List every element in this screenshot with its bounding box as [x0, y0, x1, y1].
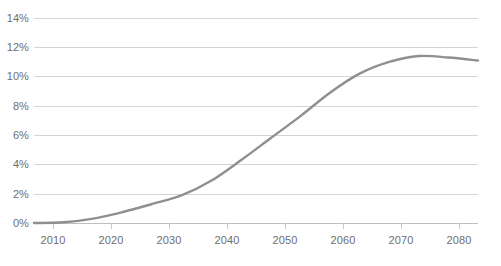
y-tick-label: 12%	[7, 41, 29, 53]
y-tick-label: 4%	[13, 158, 29, 170]
x-tick-label: 2010	[41, 234, 66, 246]
x-tick-mark	[227, 223, 228, 229]
y-tick-label: 14%	[7, 12, 29, 24]
gridline	[34, 47, 478, 48]
x-axis-line	[34, 223, 478, 224]
x-tick-mark	[343, 223, 344, 229]
x-tick-mark	[53, 223, 54, 229]
x-tick-mark	[285, 223, 286, 229]
y-tick-label: 8%	[13, 100, 29, 112]
gridline	[34, 76, 478, 77]
x-tick-label: 2040	[215, 234, 240, 246]
x-tick-label: 2020	[99, 234, 124, 246]
x-tick-mark	[401, 223, 402, 229]
x-tick-mark	[111, 223, 112, 229]
x-tick-mark	[169, 223, 170, 229]
x-tick-mark	[459, 223, 460, 229]
chart-container: 14% 12% 10% 8% 6% 4% 2% 0% 2010 2020 203…	[0, 0, 501, 266]
gridline	[34, 106, 478, 107]
x-tick-label: 2070	[389, 234, 414, 246]
x-tick-label: 2050	[273, 234, 298, 246]
x-tick-label: 2060	[331, 234, 356, 246]
x-tick-label: 2080	[447, 234, 472, 246]
gridline	[34, 164, 478, 165]
y-tick-label: 6%	[13, 129, 29, 141]
y-tick-label: 10%	[7, 70, 29, 82]
x-tick-label: 2030	[157, 234, 182, 246]
plot-area	[34, 18, 478, 223]
gridline	[34, 194, 478, 195]
gridline	[34, 18, 478, 19]
gridline	[34, 135, 478, 136]
y-tick-label: 0%	[13, 217, 29, 229]
y-tick-label: 2%	[13, 188, 29, 200]
